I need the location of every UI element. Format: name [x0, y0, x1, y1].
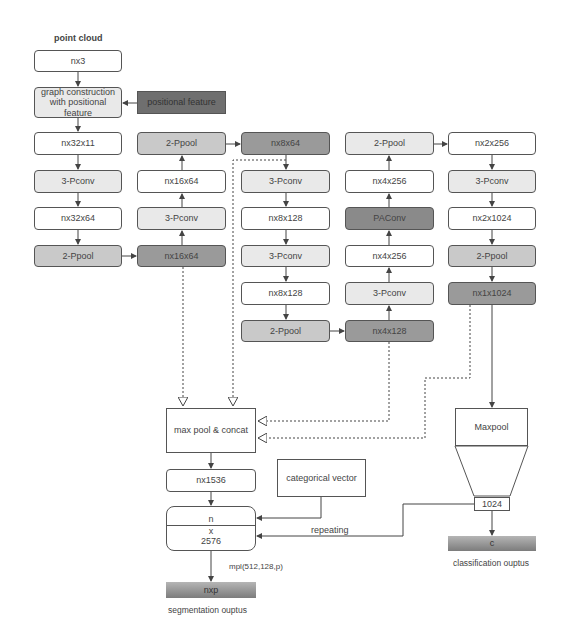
- c3-nx8x128-1: nx8x128: [241, 207, 330, 230]
- c4-nx4x256-bottom: nx4x256: [345, 245, 434, 267]
- c5-nx1x1024: nx1x1024: [448, 282, 536, 305]
- global-feature-1024: 1024: [474, 497, 510, 511]
- c3-nx8x64: nx8x64: [241, 132, 330, 155]
- concat-2576: 2576: [201, 536, 221, 546]
- c2-nx16x64-top: nx16x64: [137, 170, 226, 193]
- network-architecture-diagram: point cloud nx3 graph construction with …: [0, 0, 571, 639]
- classification-output-c: c: [448, 536, 536, 551]
- c3-nx8x128-2: nx8x128: [241, 282, 330, 305]
- input-nx3: nx3: [34, 50, 122, 72]
- graph-construction-line1: graph construction: [41, 87, 115, 97]
- segmentation-output-label: segmentation ouptus: [168, 605, 247, 615]
- max-pool-concat: max pool & concat: [166, 408, 256, 453]
- concat-n: n: [208, 514, 213, 524]
- c2-nx16x64-bottom: nx16x64: [137, 245, 226, 267]
- repeating-label: repeating: [311, 525, 349, 535]
- c3-3-pconv-2: 3-Pconv: [241, 245, 330, 267]
- nx1536: nx1536: [166, 469, 256, 492]
- graph-construction-node: graph construction with positional featu…: [34, 87, 122, 118]
- title-point-cloud: point cloud: [54, 33, 103, 43]
- graph-construction-line2: with positional feature: [35, 97, 121, 118]
- c4-nx4x128: nx4x128: [345, 320, 434, 342]
- positional-feature: positional feature: [137, 91, 226, 114]
- c4-nx4x256-top: nx4x256: [345, 170, 434, 193]
- c5-nx2x1024: nx2x1024: [448, 207, 536, 230]
- segmentation-output-nxp: nxp: [166, 582, 256, 598]
- c5-3-pconv: 3-Pconv: [448, 170, 536, 193]
- c4-3-pconv: 3-Pconv: [345, 282, 434, 305]
- c4-2-ppool: 2-Ppool: [345, 132, 434, 155]
- c5-nx2x256: nx2x256: [448, 132, 536, 155]
- mlp-label: mpl(512,128,p): [229, 562, 283, 571]
- c1-3-pconv: 3-Pconv: [34, 170, 122, 193]
- categorical-vector: categorical vector: [277, 459, 366, 497]
- c2-2-ppool: 2-Ppool: [137, 132, 226, 155]
- c1-2-ppool: 2-Ppool: [34, 245, 122, 267]
- c3-2-ppool: 2-Ppool: [241, 320, 330, 342]
- c5-2-ppool: 2-Ppool: [448, 245, 536, 267]
- c3-3-pconv-1: 3-Pconv: [241, 170, 330, 193]
- concat-x: x: [209, 526, 214, 536]
- c4-paconv: PAConv: [345, 207, 434, 230]
- c2-3-pconv: 3-Pconv: [137, 207, 226, 230]
- classification-output-label: classification ouptus: [453, 558, 529, 568]
- concat-feature-box: n x 2576: [166, 506, 256, 551]
- c1-nx32x11: nx32x11: [34, 132, 122, 155]
- c1-nx32x64: nx32x64: [34, 207, 122, 230]
- maxpool-node: Maxpool: [455, 408, 528, 446]
